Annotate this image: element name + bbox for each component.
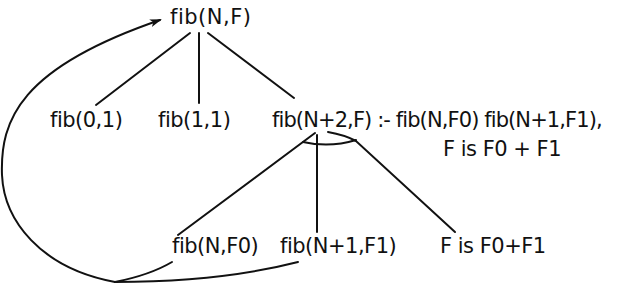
goal-fib-n-plus-1-f1: fib(N+1,F1) [280, 234, 396, 258]
goal-fib-n-f0: fib(N,F0) [172, 234, 258, 258]
edge-rule-to-goal1 [178, 133, 315, 235]
and-arc [303, 140, 356, 145]
edge-root-to-rule [208, 33, 294, 98]
node-rule-line-2: F is F0 + F1 [443, 137, 561, 161]
node-fib-1-1: fib(1,1) [158, 108, 230, 132]
loop-from-goal1 [115, 262, 172, 282]
node-fib-0-1: fib(0,1) [50, 108, 122, 132]
root-node-fib-n-f: fib(N,F) [170, 5, 251, 29]
goal-f-is-f0-plus-f1: F is F0+F1 [440, 234, 546, 258]
recursion-loop-arrow [2, 20, 160, 282]
fibonacci-and-or-tree: fib(N,F) fib(0,1) fib(1,1) fib(N+2,F) :-… [0, 0, 632, 289]
loop-from-goal2 [115, 262, 298, 282]
edge-rule-to-goal3 [328, 132, 455, 232]
edge-root-to-base0 [96, 33, 190, 105]
node-rule-line-1: fib(N+2,F) :- fib(N,F0) fib(N+1,F1), [272, 108, 602, 132]
